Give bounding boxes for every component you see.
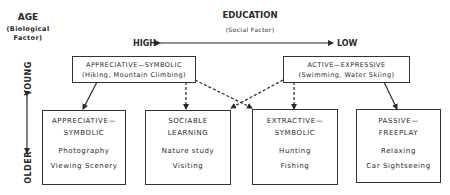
- education-subtitle: (Social Factor): [195, 26, 305, 33]
- bottom-box-appreciative-symbolic: APPRECIATIVE— SYMBOLIC Photography Viewi…: [42, 110, 126, 185]
- top-box-active-expressive: ACTIVE—EXPRESSIVE (Swimming, Water Skiin…: [283, 56, 410, 83]
- box-title-line1: APPRECIATIVE—: [43, 115, 125, 127]
- education-title: EDUCATION: [195, 10, 305, 20]
- education-low-label: LOW: [337, 39, 367, 48]
- arrow-appreciative-to-extractive: [195, 80, 252, 108]
- bottom-box-extractive-symbolic: EXTRACTIVE— SYMBOLIC Hunting Fishing: [252, 109, 338, 185]
- top-box-title: ACTIVE—EXPRESSIVE: [284, 60, 409, 70]
- bottom-box-passive-freeplay: PASSIVE— FREEPLAY Relaxing Car Sightseei…: [356, 109, 441, 183]
- box-example1: Relaxing: [357, 144, 440, 159]
- box-example1: Hunting: [253, 144, 337, 159]
- top-box-examples: (Swimming, Water Skiing): [284, 70, 409, 80]
- box-title-line2: FREEPLAY: [357, 127, 440, 139]
- box-title-line1: PASSIVE—: [357, 115, 440, 127]
- box-title-line1: EXTRACTIVE—: [253, 115, 337, 127]
- box-title-line2: LEARNING: [146, 127, 230, 139]
- top-box-appreciative-symbolic: APPRECIATIVE—SYMBOLIC (Hiking, Mountain …: [72, 56, 196, 83]
- age-subtitle-line2: Factor): [2, 34, 54, 42]
- box-example2: Fishing: [253, 159, 337, 174]
- age-subtitle-line1: (Biological: [2, 25, 54, 33]
- age-young-label: YOUNG: [24, 59, 33, 99]
- arrow-appreciative-to-appreciative: [83, 82, 97, 109]
- box-example1: Nature study: [146, 144, 230, 159]
- box-title-line2: SYMBOLIC: [253, 127, 337, 139]
- top-box-examples: (Hiking, Mountain Climbing): [73, 70, 195, 80]
- top-box-title: APPRECIATIVE—SYMBOLIC: [73, 60, 195, 70]
- box-example1: Photography: [43, 144, 125, 159]
- box-example2: Visiting: [146, 159, 230, 174]
- box-title-line2: SYMBOLIC: [43, 127, 125, 139]
- education-high-label: HIGH: [122, 39, 156, 48]
- box-title-line1: SOCIABLE: [146, 115, 230, 127]
- arrow-active-to-passive: [384, 82, 397, 109]
- box-example2: Car Sightseeing: [357, 159, 440, 174]
- age-older-label: OLDER: [24, 148, 33, 188]
- arrow-active-to-sociable: [231, 80, 283, 108]
- box-example2: Viewing Scenery: [43, 159, 125, 174]
- age-title: AGE: [4, 12, 52, 22]
- bottom-box-sociable-learning: SOCIABLE LEARNING Nature study Visiting: [145, 110, 231, 185]
